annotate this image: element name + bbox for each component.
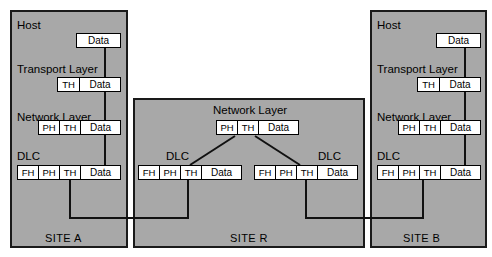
link-r-b-bottom [305, 217, 424, 219]
diagonal-left-line [190, 136, 235, 165]
diagonal-right-line [255, 136, 300, 165]
site-b-label: SITE B [403, 232, 440, 244]
link-r-b-rise-right [422, 180, 424, 219]
site-r-network-packet: PH TH Data [216, 120, 299, 135]
site-b-transport-packet: TH Data [417, 77, 481, 92]
packet-field-data: Data [318, 166, 357, 179]
packet-field-fh: FH [378, 166, 399, 179]
site-b-connector-transport-network [464, 92, 466, 122]
packet-field-data: Data [441, 166, 480, 179]
packet-field-th: TH [418, 78, 440, 91]
site-r-dlc-packet-left: FH PH TH Data [138, 165, 242, 180]
site-b-network-packet: PH TH Data [398, 120, 481, 135]
packet-field-fh: FH [255, 166, 276, 179]
link-a-r-drop-left [69, 180, 71, 219]
packet-field-data: Data [437, 34, 480, 47]
site-b-dlc-packet: FH PH TH Data [377, 165, 481, 180]
link-a-r-bottom [69, 217, 189, 219]
diagram-canvas: Host Transport Layer Network Layer DLC D… [0, 0, 492, 257]
link-a-r-rise-right [187, 180, 189, 219]
site-b-layer-label-dlc: DLC [377, 150, 400, 162]
packet-field-ph: PH [160, 166, 181, 179]
packet-field-th: TH [181, 166, 202, 179]
packet-field-fh: FH [139, 166, 160, 179]
site-b-layer-label-host: Host [377, 19, 401, 31]
packet-field-th: TH [238, 121, 259, 134]
site-b-layer-label-transport: Transport Layer [377, 63, 458, 75]
link-r-b-drop-left [305, 180, 307, 219]
packet-field-ph: PH [217, 121, 238, 134]
packet-field-data: Data [259, 121, 298, 134]
packet-field-ph: PH [276, 166, 297, 179]
packet-field-data: Data [202, 166, 241, 179]
site-b-host-packet: Data [436, 33, 481, 48]
packet-field-data: Data [441, 121, 480, 134]
site-r-label: SITE R [230, 232, 268, 244]
packet-field-ph: PH [399, 121, 420, 134]
site-b-connector-network-dlc [464, 135, 466, 166]
packet-field-data: Data [440, 78, 480, 91]
site-r-dlc-packet-right: FH PH TH Data [254, 165, 358, 180]
packet-field-th: TH [297, 166, 318, 179]
packet-field-ph: PH [399, 166, 420, 179]
packet-field-th: TH [420, 166, 441, 179]
packet-field-th: TH [420, 121, 441, 134]
site-b-connector-host-transport [464, 48, 466, 78]
